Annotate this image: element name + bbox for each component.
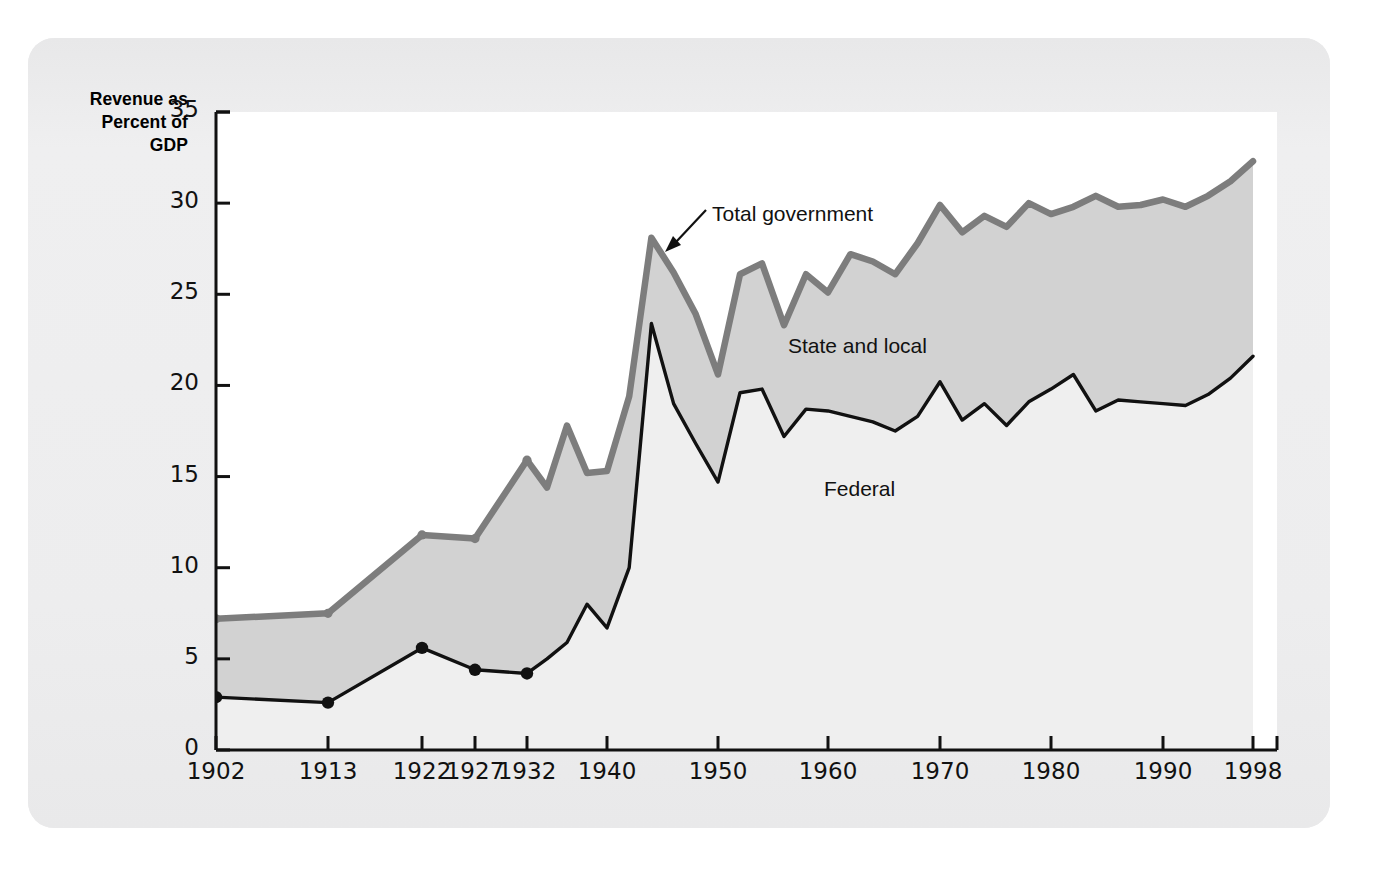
x-axis-tick-label: 1950 bbox=[689, 758, 748, 784]
federal-marker bbox=[416, 642, 428, 654]
y-axis-tick-label: 15 bbox=[155, 461, 199, 487]
total-government-marker bbox=[470, 534, 479, 543]
total-government-marker bbox=[323, 609, 332, 618]
x-axis-tick-label: 1970 bbox=[911, 758, 970, 784]
chart-plot bbox=[0, 0, 1376, 874]
x-axis-tick-label: 1960 bbox=[799, 758, 858, 784]
y-axis-tick-label: 20 bbox=[155, 369, 199, 395]
annotation-total-government: Total government bbox=[712, 202, 873, 226]
x-axis-tick-label: 1932 bbox=[498, 758, 557, 784]
federal-marker bbox=[521, 667, 533, 679]
x-axis-tick-label: 1980 bbox=[1022, 758, 1081, 784]
federal-marker bbox=[322, 696, 334, 708]
x-axis-tick-label: 1922 bbox=[393, 758, 452, 784]
y-axis-tick-label: 5 bbox=[155, 643, 199, 669]
annotation-state-and-local: State and local bbox=[788, 334, 927, 358]
x-axis-tick-label: 1990 bbox=[1134, 758, 1193, 784]
x-axis-tick-label: 1940 bbox=[578, 758, 637, 784]
x-axis-tick-label: 1913 bbox=[299, 758, 358, 784]
y-axis-tick-label: 30 bbox=[155, 187, 199, 213]
total-government-marker bbox=[522, 456, 531, 465]
annotation-federal: Federal bbox=[824, 477, 895, 501]
x-axis-tick-label: 1998 bbox=[1224, 758, 1283, 784]
x-axis-tick-label: 1902 bbox=[187, 758, 246, 784]
total-government-marker bbox=[417, 530, 426, 539]
y-axis-tick-label: 35 bbox=[155, 96, 199, 122]
federal-marker bbox=[469, 664, 481, 676]
y-axis-tick-label: 0 bbox=[155, 734, 199, 760]
y-axis-tick-label: 10 bbox=[155, 552, 199, 578]
y-axis-tick-label: 25 bbox=[155, 278, 199, 304]
x-axis-tick-label: 1927 bbox=[446, 758, 505, 784]
figure-root: Revenue as Percent of GDP bbox=[0, 0, 1376, 874]
